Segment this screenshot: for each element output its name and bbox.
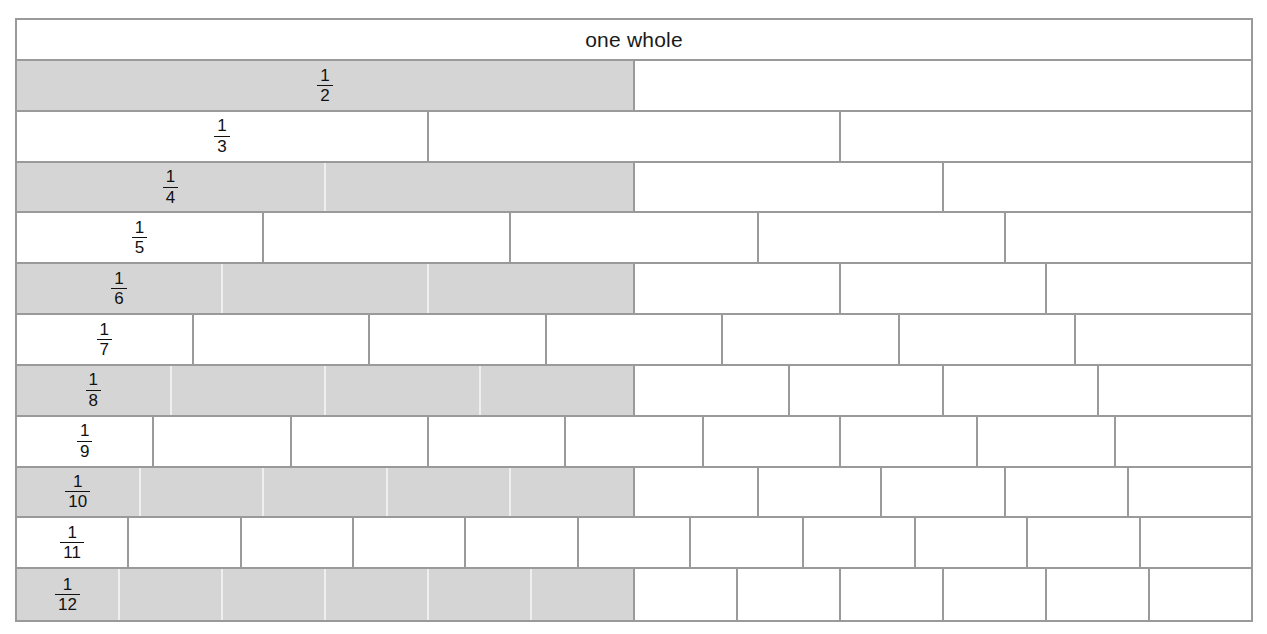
fraction-denominator: 10 (65, 491, 90, 510)
fraction-cell[interactable] (1129, 468, 1251, 517)
fraction-cell[interactable]: 17 (17, 315, 194, 364)
fraction-denominator: 11 (60, 542, 84, 561)
fraction-cells: 12 (17, 61, 1251, 110)
fraction-cell[interactable] (704, 417, 841, 466)
fraction-cell[interactable] (944, 366, 1099, 415)
fraction-cell[interactable] (882, 468, 1006, 517)
fraction-cell[interactable] (759, 213, 1006, 262)
fraction-cell[interactable] (532, 569, 635, 620)
fraction-cells: 14 (17, 163, 1251, 212)
fraction-cell[interactable] (691, 518, 803, 567)
fraction-cell[interactable] (429, 112, 841, 161)
fraction-label-3: 13 (214, 117, 229, 155)
fraction-cell[interactable] (223, 569, 326, 620)
fraction-cell[interactable] (579, 518, 691, 567)
fraction-cell[interactable]: 18 (17, 366, 172, 415)
fraction-cell[interactable] (120, 569, 223, 620)
fraction-cell[interactable] (841, 112, 1251, 161)
fraction-label-5: 15 (132, 219, 147, 257)
fraction-row-8: 18 (17, 366, 1251, 417)
fraction-denominator: 12 (55, 594, 80, 613)
fraction-cell[interactable] (511, 468, 635, 517)
fraction-cell[interactable]: 19 (17, 417, 154, 466)
fraction-cell[interactable] (635, 569, 738, 620)
fraction-cell[interactable] (841, 417, 978, 466)
fraction-cell[interactable] (326, 366, 481, 415)
fraction-cell[interactable] (944, 163, 1251, 212)
fraction-cell[interactable] (944, 569, 1047, 620)
fraction-cell[interactable] (511, 213, 758, 262)
fraction-denominator: 6 (111, 288, 126, 307)
fraction-cell[interactable] (242, 518, 354, 567)
fraction-cell[interactable] (790, 366, 945, 415)
fraction-cell[interactable] (1141, 518, 1251, 567)
fraction-row-10: 110 (17, 468, 1251, 519)
fraction-cells: 18 (17, 366, 1251, 415)
fraction-cell[interactable] (141, 468, 265, 517)
fraction-cell[interactable] (759, 468, 883, 517)
fraction-label-7: 17 (97, 321, 112, 359)
fraction-cell[interactable] (1099, 366, 1252, 415)
fraction-cell[interactable] (1006, 468, 1130, 517)
fraction-cells: 16 (17, 264, 1251, 313)
fraction-cell[interactable] (326, 569, 429, 620)
fraction-row-3: 13 (17, 112, 1251, 163)
fraction-cell[interactable] (326, 163, 635, 212)
fraction-cell[interactable] (635, 366, 790, 415)
fraction-cell[interactable] (429, 264, 635, 313)
fraction-cell[interactable] (429, 417, 566, 466)
fraction-numerator: 1 (60, 576, 75, 593)
fraction-cell[interactable] (804, 518, 916, 567)
fraction-cell[interactable] (1047, 264, 1251, 313)
fraction-cell[interactable]: 13 (17, 112, 429, 161)
fraction-row-2: 12 (17, 61, 1251, 112)
fraction-cell[interactable] (370, 315, 547, 364)
fraction-cell[interactable]: 110 (17, 468, 141, 517)
fraction-cell[interactable] (635, 468, 759, 517)
fraction-cell[interactable] (388, 468, 512, 517)
fraction-cell[interactable] (1006, 213, 1251, 262)
fraction-cell[interactable] (481, 366, 636, 415)
fraction-numerator: 1 (317, 67, 332, 84)
fraction-cell[interactable] (635, 61, 1251, 110)
fraction-numerator: 1 (77, 422, 92, 439)
fraction-cells: 110 (17, 468, 1251, 517)
fraction-cell[interactable] (900, 315, 1077, 364)
fraction-cell[interactable] (723, 315, 900, 364)
fraction-cell[interactable] (635, 264, 841, 313)
fraction-cell[interactable] (264, 468, 388, 517)
fraction-cell[interactable]: 112 (17, 569, 120, 620)
fraction-cell[interactable]: 111 (17, 518, 129, 567)
fraction-cell[interactable] (194, 315, 371, 364)
fraction-cell[interactable] (978, 417, 1115, 466)
fraction-cell[interactable] (466, 518, 578, 567)
fraction-cell[interactable]: 16 (17, 264, 223, 313)
fraction-cell[interactable] (223, 264, 429, 313)
fraction-cell[interactable] (841, 264, 1047, 313)
fraction-cell[interactable] (154, 417, 291, 466)
fraction-label-8: 18 (86, 371, 101, 409)
fraction-cell[interactable] (635, 163, 944, 212)
fraction-cell[interactable] (429, 569, 532, 620)
fraction-cell[interactable]: 15 (17, 213, 264, 262)
fraction-cell[interactable] (1047, 569, 1150, 620)
fraction-cell[interactable] (172, 366, 327, 415)
fraction-cell[interactable] (1116, 417, 1251, 466)
fraction-cell[interactable] (1150, 569, 1251, 620)
fraction-cell[interactable] (292, 417, 429, 466)
fraction-cell[interactable] (566, 417, 703, 466)
fraction-cell[interactable] (547, 315, 724, 364)
fraction-cell[interactable] (264, 213, 511, 262)
fraction-numerator: 1 (64, 524, 79, 541)
fraction-cell[interactable] (738, 569, 841, 620)
fraction-cell[interactable]: 14 (17, 163, 326, 212)
fraction-denominator: 2 (317, 85, 332, 104)
fraction-cell[interactable] (916, 518, 1028, 567)
fraction-cell[interactable] (841, 569, 944, 620)
fraction-cell[interactable] (1076, 315, 1251, 364)
fraction-cell[interactable] (129, 518, 241, 567)
fraction-cells: 111 (17, 518, 1251, 567)
fraction-cell[interactable] (1028, 518, 1140, 567)
fraction-cell[interactable]: 12 (17, 61, 635, 110)
fraction-cell[interactable] (354, 518, 466, 567)
